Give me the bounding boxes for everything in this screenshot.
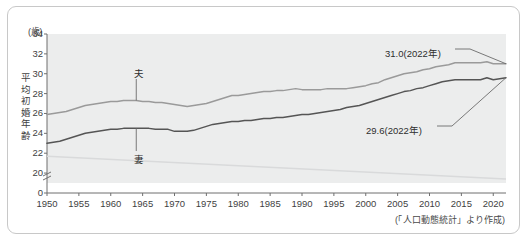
y-tick-label: 34: [20, 28, 43, 39]
x-tick-label: 1960: [95, 198, 127, 209]
plot-area-wrapper: [0, 0, 527, 248]
y-tick-label: 26: [20, 107, 43, 118]
source-note: (「人口動態統計」より作成): [395, 213, 505, 226]
x-tick-label: 2010: [414, 198, 446, 209]
annotation-husband-end-value: 31.0(2022年): [385, 46, 441, 60]
chart-figure: (歳) 平 均 初 婚 年 齢 02022242628303234 195019…: [0, 0, 527, 248]
x-tick-label: 1955: [63, 198, 95, 209]
y-tick-label: 30: [20, 68, 43, 79]
x-tick-label: 1980: [222, 198, 254, 209]
x-tick-label: 2000: [350, 198, 382, 209]
x-tick-label: 1990: [286, 198, 318, 209]
x-tick-label: 1985: [254, 198, 286, 209]
y-tick-label: 24: [20, 127, 43, 138]
y-tick-label: 20: [20, 167, 43, 178]
x-tick-label: 2020: [477, 198, 509, 209]
y-tick-label: 22: [20, 147, 43, 158]
annotation-wife-end-value: 29.6(2022年): [366, 123, 422, 137]
x-tick-label: 1970: [159, 198, 191, 209]
x-tick-label: 1950: [31, 198, 63, 209]
x-tick-label: 1995: [318, 198, 350, 209]
y-tick-label: 32: [20, 48, 43, 59]
x-tick-label: 2005: [382, 198, 414, 209]
series-label-wife: 妻: [134, 152, 144, 166]
line-chart-svg: [0, 0, 527, 248]
series-label-husband: 夫: [134, 66, 144, 80]
x-tick-label: 1975: [190, 198, 222, 209]
x-tick-label: 1965: [127, 198, 159, 209]
y-tick-label: 28: [20, 88, 43, 99]
x-tick-label: 2015: [445, 198, 477, 209]
y-tick-label: 0: [20, 187, 43, 198]
